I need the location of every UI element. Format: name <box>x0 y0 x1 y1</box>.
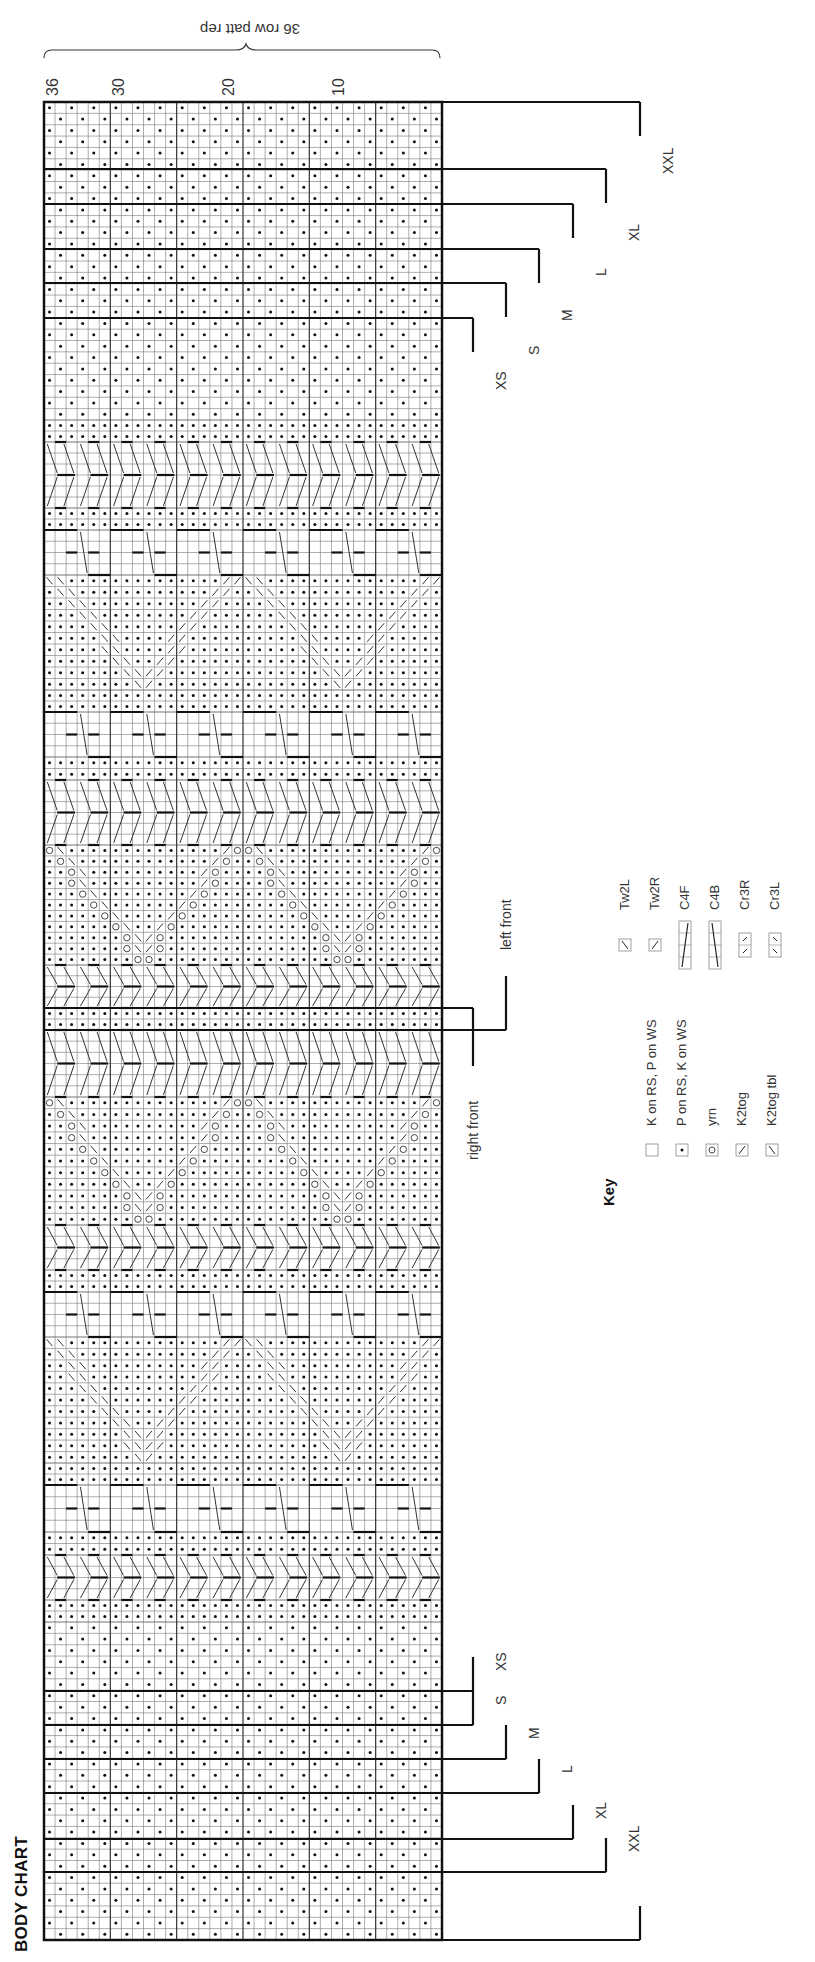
size-markers <box>44 102 640 1940</box>
row-tick-36: 36 <box>44 78 62 96</box>
row-tick-20: 20 <box>220 78 238 96</box>
key-item-dot: P on RS, K on WS <box>674 1019 689 1126</box>
bottom-size-label-xs: XS <box>493 1652 509 1671</box>
knitting-chart <box>0 0 815 1962</box>
bottom-size-label-m: M <box>526 1727 542 1739</box>
chart-grid <box>44 102 442 1940</box>
top-size-label-l: L <box>593 268 609 276</box>
key-item-tw2l: Tw2L <box>617 879 632 910</box>
top-size-label-xxl: XXL <box>660 148 676 174</box>
repeat-label: 36 row patt rep <box>200 21 300 38</box>
bottom-size-label-xl: XL <box>593 1802 609 1819</box>
key-item-circle: yrn <box>704 1108 719 1126</box>
right-front-label: right front <box>465 1101 481 1160</box>
key-item-cr3l: Cr3L <box>767 882 782 910</box>
top-size-label-xl: XL <box>626 224 642 241</box>
key-item-blank: K on RS, P on WS <box>644 1019 659 1126</box>
key-item-slash-left: K2tog tbl <box>764 1075 779 1126</box>
key-item-tw2r: Tw2R <box>647 877 662 910</box>
bottom-size-label-xxl: XXL <box>626 1826 642 1852</box>
key-item-cr3r: Cr3R <box>737 880 752 910</box>
key-title: Key <box>600 1178 617 1206</box>
top-size-label-m: M <box>559 309 575 321</box>
top-size-label-s: S <box>526 346 542 355</box>
repeat-brace <box>44 44 440 58</box>
key-item-slash-right: K2tog <box>734 1092 749 1126</box>
bottom-size-label-s: S <box>493 1696 509 1705</box>
key-item-c4f: C4F <box>677 885 692 910</box>
chart-title: BODY CHART <box>12 1836 32 1952</box>
key-item-c4b: C4B <box>707 885 722 910</box>
top-size-label-xs: XS <box>493 371 509 390</box>
bottom-size-label-l: L <box>559 1765 575 1773</box>
row-tick-10: 10 <box>330 78 348 96</box>
left-front-label: left front <box>498 899 514 950</box>
row-tick-30: 30 <box>110 78 128 96</box>
